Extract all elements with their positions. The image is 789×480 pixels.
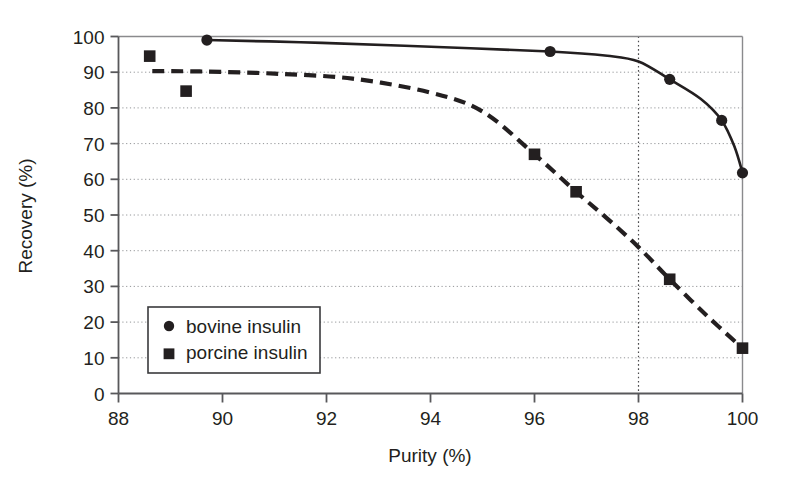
x-tick-label-90: 90 [212, 408, 233, 429]
data-point-porcine-insulin-1 [180, 85, 192, 97]
legend-marker-circle-icon [164, 321, 174, 331]
x-axis-title: Purity (%) [388, 445, 471, 466]
x-tick-label-98: 98 [628, 408, 649, 429]
legend-marker-square-icon [164, 348, 175, 359]
data-point-bovine-insulin-3 [716, 115, 727, 126]
legend: bovine insulin porcine insulin [148, 307, 320, 373]
y-tick-label-30: 30 [83, 276, 104, 297]
data-point-porcine-insulin-3 [570, 186, 582, 198]
y-tick-label-10: 10 [83, 348, 104, 369]
x-tick-label-94: 94 [420, 408, 442, 429]
y-tick-label-0: 0 [94, 384, 105, 405]
y-tick-label-40: 40 [83, 241, 104, 262]
y-tick-label-90: 90 [83, 62, 104, 83]
x-tick-label-88: 88 [108, 408, 129, 429]
data-point-porcine-insulin-2 [529, 149, 541, 161]
data-point-porcine-insulin-4 [664, 273, 676, 285]
y-axis-title: Recovery (%) [15, 158, 36, 273]
y-tick-label-80: 80 [83, 98, 104, 119]
y-tick-label-60: 60 [83, 169, 104, 190]
x-tick-label-100: 100 [727, 408, 759, 429]
legend-label-porcine: porcine insulin [186, 342, 307, 363]
y-tick-label-70: 70 [83, 134, 104, 155]
chart-figure: 889092949698100 0102030405060708090100 P… [0, 0, 789, 480]
data-point-bovine-insulin-0 [201, 34, 212, 45]
y-tick-label-20: 20 [83, 312, 104, 333]
data-point-bovine-insulin-4 [737, 167, 748, 178]
data-point-porcine-insulin-0 [144, 50, 156, 62]
legend-label-bovine: bovine insulin [186, 316, 301, 337]
x-tick-label-92: 92 [316, 408, 337, 429]
data-point-bovine-insulin-1 [545, 46, 556, 57]
data-point-porcine-insulin-5 [737, 342, 749, 354]
data-point-bovine-insulin-2 [664, 74, 675, 85]
y-tick-label-50: 50 [83, 205, 104, 226]
y-tick-label-100: 100 [73, 27, 105, 48]
x-tick-label-96: 96 [524, 408, 545, 429]
recovery-vs-purity-chart: 889092949698100 0102030405060708090100 P… [0, 0, 789, 480]
